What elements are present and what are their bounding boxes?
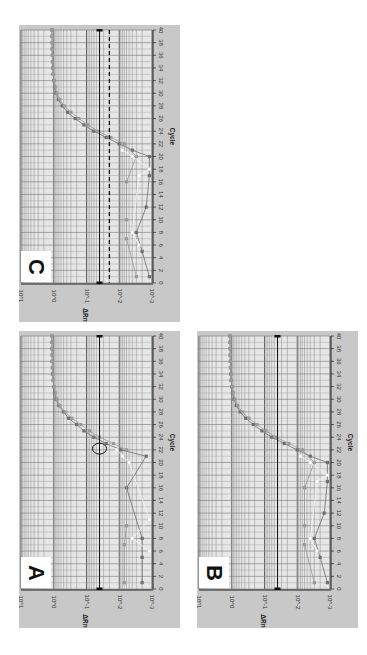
cycle-tick-label: 6 [158, 549, 164, 553]
data-point [326, 474, 329, 477]
cycle-tick-label: 32 [158, 77, 164, 84]
data-point [82, 123, 85, 126]
data-point [264, 429, 267, 432]
chart-panel-a: 024681012141618202224262830323436384010^… [19, 331, 180, 628]
data-point [51, 35, 54, 38]
data-point [296, 448, 299, 451]
data-point [131, 231, 134, 234]
data-point [230, 379, 233, 382]
data-point [323, 512, 326, 515]
data-point [125, 524, 128, 527]
cycle-tick-label: 20 [158, 459, 164, 466]
cycle-tick-label: 26 [158, 115, 164, 122]
cycle-tick-label: 30 [336, 396, 342, 403]
cycle-tick-label: 24 [336, 434, 342, 441]
delta-rn-tick-label: 10^0 [229, 596, 235, 609]
data-point [51, 372, 54, 375]
delta-rn-tick-label: 10^-3 [327, 595, 333, 610]
delta-rn-tick-label: 10^1 [197, 596, 202, 609]
cycle-tick-label: 24 [158, 128, 164, 135]
data-point [148, 275, 151, 278]
cycle-tick-label: 36 [158, 52, 164, 59]
data-point [92, 436, 95, 439]
data-point [260, 429, 263, 432]
cycle-tick-label: 2 [336, 575, 342, 579]
data-point [96, 130, 99, 133]
data-point [52, 379, 55, 382]
data-point [145, 206, 148, 209]
data-point [70, 417, 73, 420]
cycle-axis-title: Cycle [168, 434, 176, 452]
data-point [82, 429, 85, 432]
cycle-tick-label: 28 [158, 409, 164, 416]
data-point [55, 398, 58, 401]
cycle-tick-label: 32 [158, 383, 164, 390]
delta-rn-tick-label: 10^1 [19, 596, 24, 609]
cycle-tick-label: 30 [158, 396, 164, 403]
cycle-tick-label: 28 [336, 409, 342, 416]
data-point [77, 117, 80, 120]
data-point [131, 155, 134, 158]
data-point [299, 455, 302, 458]
cycle-tick-label: 34 [158, 371, 164, 378]
data-point [229, 372, 232, 375]
data-point [53, 385, 56, 388]
delta-rn-axis-title: ΔRn [260, 614, 267, 627]
data-point [141, 250, 144, 253]
data-point [148, 168, 151, 171]
cycle-tick-label: 6 [158, 243, 164, 247]
data-point [121, 455, 124, 458]
data-point [252, 423, 255, 426]
cycle-tick-label: 36 [336, 358, 342, 365]
data-point [75, 423, 78, 426]
data-point [52, 73, 55, 76]
cycle-tick-label: 18 [336, 472, 342, 479]
panel-a: 024681012141618202224262830323436384010^… [19, 331, 180, 628]
delta-rn-tick-label: 10^-1 [84, 289, 90, 304]
cycle-tick-label: 22 [158, 447, 164, 454]
data-point [125, 218, 128, 221]
data-point [236, 404, 239, 407]
data-point [131, 537, 134, 540]
cycle-tick-label: 6 [336, 549, 342, 553]
data-point [229, 353, 232, 356]
cycle-tick-label: 36 [158, 358, 164, 365]
data-point [270, 436, 273, 439]
delta-rn-tick-label: 10^-1 [262, 595, 268, 610]
data-point [123, 581, 126, 584]
cycle-tick-label: 14 [158, 191, 164, 198]
cycle-tick-label: 10 [158, 522, 164, 529]
data-point [135, 231, 138, 234]
data-point [326, 581, 329, 584]
data-point [141, 581, 144, 584]
data-point [51, 347, 54, 350]
data-point [51, 60, 54, 63]
data-point [79, 423, 82, 426]
data-point [50, 28, 53, 31]
chart-panel-b: 024681012141618202224262830323436384010^… [197, 331, 358, 628]
data-point [301, 448, 304, 451]
delta-rn-tick-label: 10^-2 [295, 595, 301, 610]
cycle-tick-label: 0 [336, 587, 342, 591]
data-point [63, 104, 66, 107]
data-point [135, 155, 138, 158]
cycle-tick-label: 12 [158, 204, 164, 211]
cycle-tick-label: 22 [158, 141, 164, 148]
panel-b: 024681012141618202224262830323436384010^… [197, 331, 358, 628]
data-point [54, 85, 57, 88]
cycle-tick-label: 18 [158, 472, 164, 479]
data-point [141, 556, 144, 559]
delta-rn-tick-label: 10^0 [51, 290, 57, 303]
cycle-tick-label: 22 [336, 447, 342, 454]
data-point [148, 155, 151, 158]
data-point [228, 334, 231, 337]
delta-rn-axis-title: ΔRn [82, 308, 89, 321]
data-point [233, 398, 236, 401]
cycle-tick-label: 24 [158, 434, 164, 441]
delta-rn-tick-label: 10^-3 [149, 289, 155, 304]
cycle-tick-label: 4 [158, 562, 164, 566]
data-point [141, 537, 144, 540]
data-point [283, 442, 286, 445]
data-point [303, 486, 306, 489]
data-point [309, 537, 312, 540]
